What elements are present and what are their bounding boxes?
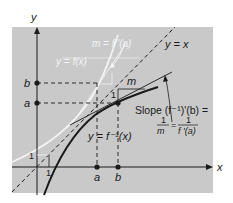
slope-frac2-num: 1 (186, 115, 191, 125)
point-x-a (94, 164, 99, 169)
point-inverse-b-a (115, 100, 120, 105)
y-tick-a-label: a (24, 97, 30, 109)
slope-equals: = (171, 120, 176, 130)
point-y-a (34, 100, 39, 105)
slope-frac1-den: m (157, 126, 165, 136)
slope-frac1-num: 1 (161, 115, 166, 125)
x-axis-label: x (216, 161, 223, 173)
inverse-slope-run-label: 1 (111, 90, 116, 100)
inverse-function-derivative-diagram: y x b a a b 1 1 m = f '(a) y = f(x) y = … (0, 0, 233, 203)
point-y-b (34, 80, 39, 85)
y-axis-label: y (30, 11, 38, 23)
f-curve-label: y = f(x) (55, 56, 87, 67)
x-tick-a-label: a (94, 171, 100, 183)
slope-annotation-line1: Slope (f⁻¹)'(b) = (135, 104, 208, 116)
x-tick-b-label: b (115, 171, 121, 183)
inverse-slope-rise-label: m (127, 75, 136, 87)
unit-y-label: 1 (29, 151, 34, 161)
identity-line-label: y = x (164, 38, 189, 50)
inverse-curve-label: y = f⁻¹(x) (87, 130, 132, 142)
y-tick-b-label: b (24, 77, 30, 89)
slope-frac2-den: f '(a) (178, 126, 196, 136)
unit-x-label: 1 (46, 168, 51, 178)
f-tangent-slope-label: m = f '(a) (92, 38, 131, 49)
point-x-b (115, 164, 120, 169)
